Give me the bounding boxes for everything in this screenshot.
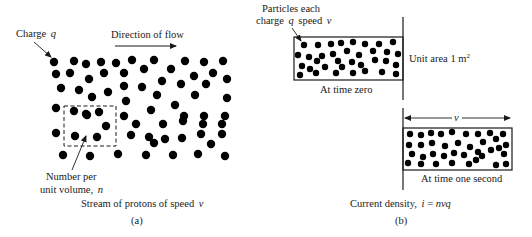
particles-pointer-arrow	[292, 28, 301, 41]
distance-v-label: v	[454, 112, 459, 123]
particles-time-zero	[295, 39, 401, 78]
panel-a: Charge q Direction of flow	[16, 28, 231, 227]
number-per-unit-volume-label: Number per	[46, 171, 97, 182]
charge-pointer-arrow	[34, 42, 51, 57]
time-one-second-label: At time one second	[421, 173, 503, 184]
panel-a-id: (a)	[131, 215, 143, 227]
unit-area-label: Unit area 1 m2	[409, 52, 470, 64]
number-pointer-arrow	[72, 136, 86, 170]
panel-b: Particles each charge q speed v	[256, 3, 512, 227]
charge-label: Charge q	[16, 28, 56, 39]
panel-a-caption: Stream of protons of speed v	[81, 198, 204, 209]
number-per-unit-volume-label-2: unit volume, n	[40, 184, 103, 195]
direction-of-flow-label: Direction of flow	[111, 29, 184, 40]
particles-label-line2: charge q speed v	[256, 15, 332, 26]
panel-b-id: (b)	[395, 215, 408, 227]
figure-canvas: Charge q Direction of flow	[0, 0, 532, 237]
panel-b-caption: Current density, i = nvq	[350, 198, 451, 209]
particles-one-second	[405, 129, 509, 168]
particles-label-line1: Particles each	[262, 3, 321, 14]
proton-stream	[50, 56, 231, 160]
time-zero-label: At time zero	[320, 84, 372, 95]
